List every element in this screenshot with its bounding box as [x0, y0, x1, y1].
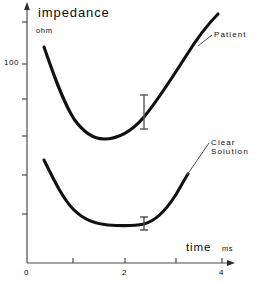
y-axis-title: impedance: [38, 6, 110, 21]
series-curve-patient: [44, 14, 218, 139]
y-axis-tick-label-100: 100: [4, 58, 19, 67]
y-axis: [24, 2, 30, 263]
series-label-clear-line2: Solution: [211, 147, 249, 156]
x-axis-tick-label-4: 4: [219, 268, 224, 277]
x-axis-unit-label: ms: [222, 245, 233, 254]
series-curve-clear-solution: [44, 160, 188, 226]
x-axis-title: time: [186, 241, 211, 254]
series-label-patient: Patient: [214, 30, 247, 39]
series-label-clear-line1: Clear: [211, 138, 236, 147]
x-axis-ticks: [73, 258, 222, 263]
y-axis-unit-label: ohm: [36, 27, 53, 36]
x-axis-tick-label-2: 2: [122, 268, 127, 277]
x-axis: [27, 260, 235, 266]
series-label-clear-solution: ClearSolution: [211, 138, 249, 156]
x-axis-tick-label-0: 0: [24, 268, 29, 277]
leader-line-clear-solution: [187, 143, 209, 175]
y-axis-ticks: [22, 22, 27, 214]
impedance-vs-time-chart: impedance ohm 100 time ms 0 2 4 Patient …: [0, 0, 264, 283]
